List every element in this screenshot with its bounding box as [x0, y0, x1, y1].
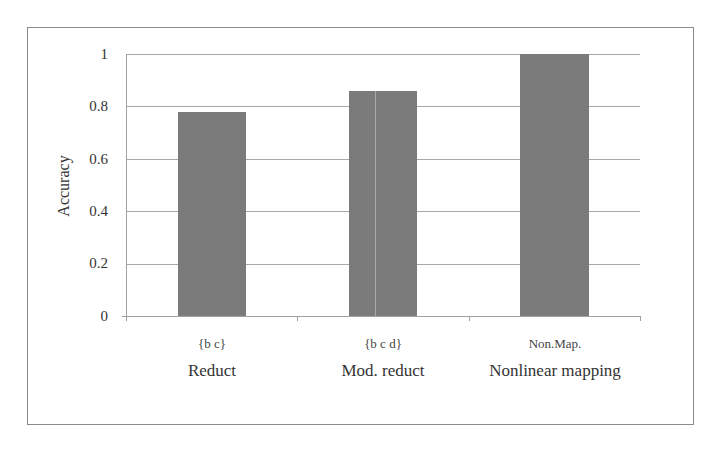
category-label: Reduct: [117, 361, 307, 381]
bar-reduct: [178, 112, 246, 316]
category-short-label: {b c}: [127, 336, 297, 352]
bar-mod-reduct: [349, 91, 417, 316]
x-tick: [469, 316, 470, 321]
category-label: Nonlinear mapping: [460, 361, 650, 381]
x-axis: [122, 316, 640, 317]
x-tick: [126, 316, 127, 321]
y-axis: [126, 54, 127, 320]
y-tick-label: 1: [68, 46, 108, 63]
y-tick-label: 0: [68, 308, 108, 325]
x-tick: [640, 316, 641, 321]
x-tick: [297, 316, 298, 321]
category-short-label: {b c d}: [298, 336, 468, 352]
y-tick-label: 0.4: [68, 203, 108, 220]
y-tick-label: 0.8: [68, 98, 108, 115]
category-short-label: Non.Map.: [470, 336, 640, 352]
y-tick-label: 0.6: [68, 151, 108, 168]
bar-nonlinear-mapping: [520, 54, 589, 316]
y-tick-label: 0.2: [68, 255, 108, 272]
category-label: Mod. reduct: [288, 361, 478, 381]
y-axis-label: Accuracy: [55, 155, 73, 216]
